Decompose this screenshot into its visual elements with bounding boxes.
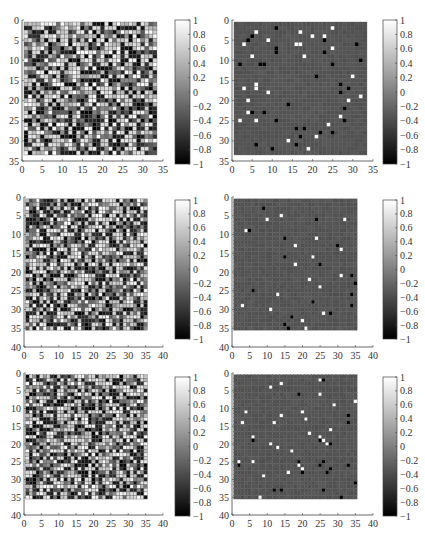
heatmap-cell [335, 91, 339, 95]
heatmap-cell [265, 293, 269, 297]
heatmap-cell [265, 251, 269, 255]
heatmap-cell [144, 206, 147, 210]
heatmap-cell [140, 266, 143, 270]
heatmap-cell [255, 439, 259, 443]
heatmap-cell [78, 289, 81, 293]
heatmap-cell [68, 42, 72, 46]
heatmap-cell [133, 478, 136, 482]
heatmap-cell [274, 107, 278, 111]
colorbar-tick-label: 1 [400, 372, 405, 383]
heatmap-cell [301, 432, 305, 436]
heatmap-cell [67, 495, 70, 499]
heatmap-cell [64, 30, 68, 34]
heatmap-cell [78, 199, 81, 203]
heatmap-cell [92, 485, 95, 489]
heatmap-cell [116, 478, 119, 482]
heatmap-cell [276, 278, 280, 282]
heatmap-cell [67, 385, 70, 389]
heatmap-cell [290, 289, 294, 293]
heatmap-cell [304, 300, 308, 304]
heatmap-cell [297, 293, 301, 297]
heatmap-cell [109, 293, 112, 297]
heatmap-cell [116, 449, 119, 453]
heatmap-cell [141, 119, 145, 123]
heatmap-cell [28, 91, 32, 95]
heatmap-cell [237, 446, 241, 450]
heatmap-cell [26, 315, 29, 319]
heatmap-cell [67, 375, 70, 379]
heatmap-cell [327, 74, 331, 78]
heatmap-cell [26, 464, 29, 468]
heatmap-cell [242, 107, 246, 111]
heatmap-cell [276, 435, 280, 439]
heatmap-cell [99, 449, 102, 453]
heatmap-cell [311, 439, 315, 443]
heatmap-cell [234, 478, 238, 482]
heatmap-cell [294, 266, 298, 270]
heatmap-cell [237, 389, 241, 393]
heatmap-cell [50, 206, 53, 210]
heatmap-cell [290, 233, 294, 237]
heatmap-cell [32, 135, 36, 139]
heatmap-cell [254, 91, 258, 95]
heatmap-cell [266, 34, 270, 38]
heatmap-cell [339, 34, 343, 38]
heatmap-cell [354, 449, 358, 453]
heatmap-cell [294, 289, 298, 293]
heatmap-cell [52, 135, 56, 139]
heatmap-cell [67, 382, 70, 386]
heatmap-cell [56, 99, 60, 103]
heatmap-cell [92, 285, 95, 289]
heatmap-cell [251, 285, 255, 289]
heatmap-cell [234, 78, 238, 82]
heatmap-cell [241, 478, 245, 482]
heatmap-cell [93, 54, 97, 58]
heatmap-cell [95, 233, 98, 237]
heatmap-cell [67, 289, 70, 293]
heatmap-cell [244, 278, 248, 282]
heatmap-cell [127, 296, 130, 300]
heatmap-cell [64, 135, 68, 139]
heatmap-cell [322, 382, 326, 386]
heatmap-cell [276, 382, 280, 386]
heatmap-cell [347, 143, 351, 147]
heatmap-cell [56, 115, 60, 119]
heatmap-cell [57, 478, 60, 482]
heatmap-cell [71, 396, 74, 400]
heatmap-cell [332, 435, 336, 439]
heatmap-cell [258, 58, 262, 62]
heatmap-cell [33, 300, 36, 304]
heatmap-cell [304, 229, 308, 233]
heatmap-cell [50, 424, 53, 428]
heatmap-cell [258, 22, 262, 26]
heatmap-cell [56, 62, 60, 66]
heatmap-cell [294, 199, 298, 203]
heatmap-cell [81, 478, 84, 482]
heatmap-cell [144, 428, 147, 432]
heatmap-cell [280, 251, 284, 255]
heatmap-cell [248, 281, 252, 285]
heatmap-cell [287, 492, 291, 496]
heatmap-cell [106, 319, 109, 323]
heatmap-cell [347, 119, 351, 123]
heatmap-cell [81, 214, 84, 218]
heatmap-cell [237, 214, 241, 218]
heatmap-cell [323, 78, 327, 82]
heatmap-cell [68, 91, 72, 95]
heatmap-cell [40, 221, 43, 225]
heatmap-cell [88, 407, 91, 411]
heatmap-cell [262, 214, 266, 218]
heatmap-cell [359, 74, 363, 78]
heatmap-cell [29, 417, 32, 421]
heatmap-cell [234, 203, 238, 207]
heatmap-cell [270, 54, 274, 58]
heatmap-cell [363, 62, 367, 66]
heatmap-cell [153, 111, 157, 115]
heatmap-cell [144, 396, 147, 400]
heatmap-cell [283, 259, 287, 263]
heatmap-cell [354, 481, 358, 485]
heatmap-cell [129, 86, 133, 90]
heatmap-cell [28, 143, 32, 147]
heatmap-cell [266, 46, 270, 50]
heatmap-cell [113, 86, 117, 90]
